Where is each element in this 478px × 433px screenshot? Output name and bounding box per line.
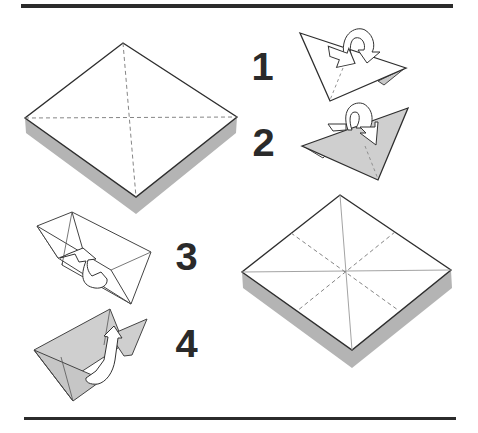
step-number-1: 1 xyxy=(251,48,273,86)
step-1-figure xyxy=(300,29,406,101)
square-eight-creases-figure xyxy=(242,195,452,368)
step-4-figure xyxy=(34,309,147,401)
paper-square xyxy=(25,43,237,197)
step-number-4: 4 xyxy=(175,325,197,363)
step-2-figure xyxy=(302,103,408,180)
origami-diagram xyxy=(0,0,478,433)
step-3-figure xyxy=(37,212,151,304)
triangle xyxy=(302,108,408,180)
square-diagonal-creases-figure xyxy=(25,43,237,214)
paper-square xyxy=(242,195,451,350)
fold-arrow-tail-icon xyxy=(328,124,346,131)
step-number-3: 3 xyxy=(175,238,197,276)
step-number-2: 2 xyxy=(252,124,274,162)
fold-arrow-icon xyxy=(346,103,372,130)
triangle xyxy=(300,33,406,101)
